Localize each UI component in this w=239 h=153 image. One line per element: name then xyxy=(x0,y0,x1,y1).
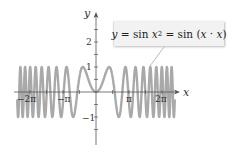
callout-eq2: = sin ( xyxy=(162,28,200,40)
y-tick-label-1: 1 xyxy=(86,62,92,72)
x-tick-label-pi: π xyxy=(126,94,132,104)
y-tick-label-neg-1: −1 xyxy=(82,113,95,123)
x-tick-label-2pi: 2π xyxy=(155,94,167,104)
x-axis-name: x xyxy=(183,86,190,99)
y-tick-label-2: 2 xyxy=(86,37,92,47)
callout-close: ) xyxy=(222,28,226,40)
function-callout: y = sin x 2 = sin ( x · x ) xyxy=(113,21,224,46)
x-tick-label-neg-pi: −π xyxy=(57,94,71,104)
callout-leader-line xyxy=(150,47,164,66)
y-axis-name: y xyxy=(83,7,91,20)
callout-eq1: = sin xyxy=(117,28,151,40)
x-tick-label-neg-2pi: −2π xyxy=(17,94,36,104)
callout-dot: · xyxy=(206,28,216,40)
